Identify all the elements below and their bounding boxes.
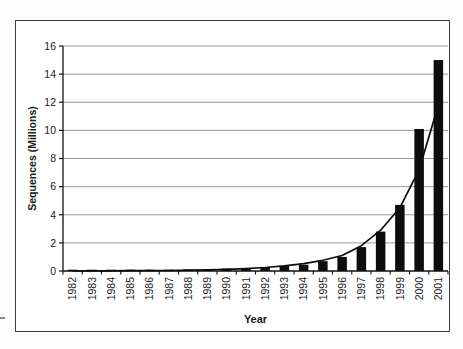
chart-svg: 0246810121416198219831984198519861987198…	[16, 21, 449, 331]
y-tick-label-6: 6	[50, 180, 56, 192]
x-tick-label-2000: 2000	[413, 277, 425, 301]
page-edge-mark	[0, 317, 5, 319]
y-tick-label-8: 8	[50, 152, 56, 164]
x-tick-label-1988: 1988	[182, 277, 194, 301]
bar-1989	[203, 269, 213, 271]
bar-1983	[87, 270, 97, 271]
x-tick-label-1983: 1983	[86, 277, 98, 301]
bar-1992	[260, 267, 270, 271]
x-axis-title: Year	[244, 313, 268, 325]
x-tick-label-1994: 1994	[297, 277, 309, 301]
bar-1997	[357, 247, 367, 271]
bar-1987	[164, 270, 174, 271]
bar-2001	[434, 60, 444, 271]
bar-1988	[183, 270, 193, 271]
bar-1996	[337, 257, 347, 271]
bar-1986	[145, 270, 155, 271]
y-tick-label-2: 2	[50, 237, 56, 249]
y-tick-label-14: 14	[44, 68, 56, 80]
x-tick-label-1991: 1991	[240, 277, 252, 301]
bar-1985	[126, 270, 136, 271]
x-tick-label-1995: 1995	[317, 277, 329, 301]
x-tick-label-1998: 1998	[374, 277, 386, 301]
x-tick-label-1989: 1989	[201, 277, 213, 301]
bar-1982	[68, 270, 78, 271]
bar-1995	[318, 261, 328, 271]
bar-1993	[280, 266, 290, 271]
x-tick-label-1986: 1986	[143, 277, 155, 301]
bar-1998	[376, 232, 386, 271]
y-tick-label-12: 12	[44, 96, 56, 108]
bar-1984	[106, 270, 116, 271]
x-tick-label-2001: 2001	[432, 277, 444, 301]
scanned-chart-page: 0246810121416198219831984198519861987198…	[0, 0, 463, 349]
x-tick-label-1993: 1993	[278, 277, 290, 301]
x-tick-label-1985: 1985	[124, 277, 136, 301]
y-tick-label-4: 4	[50, 209, 56, 221]
chart-frame: 0246810121416198219831984198519861987198…	[15, 20, 450, 332]
x-tick-label-1992: 1992	[259, 277, 271, 301]
bar-1990	[222, 269, 232, 271]
x-tick-label-1984: 1984	[105, 277, 117, 301]
bar-1991	[241, 268, 251, 271]
y-tick-label-16: 16	[44, 40, 56, 52]
y-tick-label-0: 0	[50, 265, 56, 277]
bar-2000	[414, 129, 424, 271]
x-tick-label-1996: 1996	[336, 277, 348, 301]
bar-1999	[395, 205, 405, 271]
y-tick-label-10: 10	[44, 124, 56, 136]
x-tick-label-1990: 1990	[220, 277, 232, 301]
x-tick-label-1999: 1999	[394, 277, 406, 301]
x-tick-label-1982: 1982	[66, 277, 78, 301]
x-tick-label-1987: 1987	[163, 277, 175, 301]
x-tick-label-1997: 1997	[355, 277, 367, 301]
bar-1994	[299, 265, 309, 271]
y-axis-title: Sequences (Millions)	[26, 106, 38, 210]
